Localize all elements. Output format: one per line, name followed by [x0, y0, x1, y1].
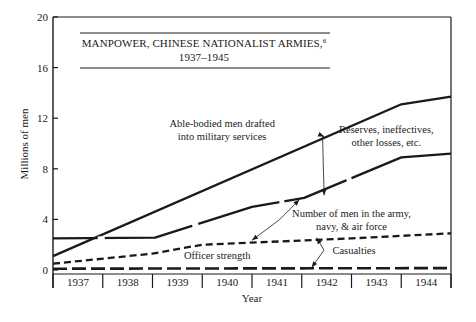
y-axis-title: Millions of men: [18, 108, 30, 179]
annotation-2: Number of men in the army,navy, & air fo…: [252, 200, 411, 240]
y-tick-label: 16: [37, 62, 49, 74]
x-tick-label: 1944: [415, 276, 438, 288]
chart-title: MANPOWER, CHINESE NATIONALIST ARMIES,6: [82, 37, 327, 49]
annotation-text: into military services: [178, 131, 267, 142]
annotation-4: Officer strength: [184, 250, 251, 261]
series-line-1: [53, 154, 451, 239]
x-tick-label: 1940: [216, 276, 239, 288]
y-tick-label: 0: [43, 264, 49, 276]
x-tick-label: 1941: [266, 276, 288, 288]
y-axis-ticks: 048121620: [37, 11, 58, 276]
x-tick-label: 1939: [166, 276, 189, 288]
plot-frame: [53, 17, 451, 288]
line-gap: [192, 224, 198, 226]
annotation-text: navy, & air force: [316, 221, 387, 232]
x-tick-label: 1943: [365, 276, 388, 288]
y-tick-label: 12: [37, 112, 48, 124]
annotation-text: Casualties: [332, 245, 375, 256]
manpower-chart: MANPOWER, CHINESE NATIONALIST ARMIES,6 1…: [0, 0, 476, 322]
x-axis-title: Year: [242, 292, 263, 304]
annotation-text: Number of men in the army,: [292, 208, 411, 219]
arrow-line: [323, 136, 325, 195]
x-axis-ticks: 19371938193919401941194219431944: [53, 274, 451, 288]
arrowhead-icon: [322, 189, 327, 195]
annotation-text: Able-bodied men drafted: [169, 118, 275, 129]
line-gap: [347, 178, 352, 180]
y-tick-label: 4: [43, 213, 49, 225]
annotation-3: Casualties: [312, 238, 376, 268]
x-tick-label: 1937: [67, 276, 90, 288]
arrowhead-icon: [318, 132, 324, 137]
line-gap: [279, 201, 284, 202]
chart-subtitle: 1937–1945: [179, 51, 230, 63]
arrowhead-icon: [312, 261, 317, 267]
annotation-0: Able-bodied men draftedinto military ser…: [169, 118, 275, 142]
annotation-text: other losses, etc.: [352, 137, 421, 148]
arrowhead-icon: [252, 235, 258, 241]
x-tick-label: 1942: [316, 276, 338, 288]
y-tick-label: 20: [37, 11, 49, 23]
x-tick-label: 1938: [117, 276, 140, 288]
series-line-3: [53, 268, 451, 269]
title-footnote: 6: [323, 37, 327, 45]
y-tick-label: 8: [43, 163, 49, 175]
annotation-text: Reserves, ineffectives,: [339, 124, 434, 135]
annotation-text: Officer strength: [184, 250, 251, 261]
